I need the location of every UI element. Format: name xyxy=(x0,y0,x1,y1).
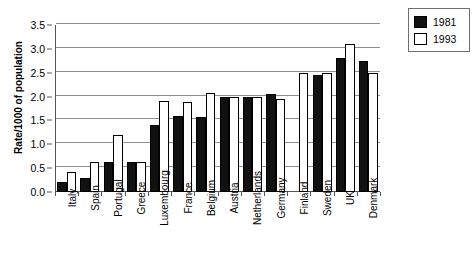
y-axis-tick-label: 0.5 xyxy=(30,162,45,174)
x-axis-label: Germany xyxy=(276,177,287,218)
x-axis-labels: ItalySpainPortugalGreeceLuxembourgFrance… xyxy=(55,196,380,268)
x-axis-label-cell: Greece xyxy=(125,196,148,268)
y-axis-tick-label: 1.5 xyxy=(30,114,45,126)
y-axis-tick-label: 3.5 xyxy=(30,19,45,31)
bar-group xyxy=(264,25,287,192)
x-axis-label-cell: UK xyxy=(334,196,357,268)
bar-group xyxy=(101,25,124,192)
y-axis-tick-label: 2.5 xyxy=(30,67,45,79)
x-axis-label-cell: Austria xyxy=(218,196,241,268)
bar-1981 xyxy=(196,117,206,192)
x-axis-label-cell: Sweden xyxy=(310,196,333,268)
bar-group xyxy=(55,25,78,192)
bar-1981 xyxy=(104,162,114,192)
x-axis-label: Denmark xyxy=(368,178,379,219)
bar-group xyxy=(334,25,357,192)
x-axis-label-cell: Denmark xyxy=(357,196,380,268)
bar-group xyxy=(78,25,101,192)
y-axis-tickmark xyxy=(47,192,52,193)
bar-1981 xyxy=(80,178,90,192)
bar-1993 xyxy=(368,73,378,192)
x-axis-tickmark xyxy=(380,192,381,196)
x-axis-label-cell: Netherlands xyxy=(241,196,264,268)
y-axis-tickmark xyxy=(47,168,52,169)
x-axis-label-cell: Finland xyxy=(287,196,310,268)
bar-group xyxy=(125,25,148,192)
bar-group xyxy=(148,25,171,192)
x-axis-label-cell: Italy xyxy=(55,196,78,268)
x-axis-label: Sweden xyxy=(322,180,333,216)
gridline xyxy=(56,23,380,24)
y-axis-tickmark xyxy=(47,144,52,145)
bar-1981 xyxy=(57,182,67,192)
x-axis-label-cell: Belgium xyxy=(194,196,217,268)
bar-1993 xyxy=(322,73,332,192)
x-axis-label: Greece xyxy=(136,182,147,215)
y-axis-tick-label: 0.0 xyxy=(30,186,45,198)
bar-1993 xyxy=(206,93,216,192)
y-axis-tickmark xyxy=(47,96,52,97)
x-axis-label: Netherlands xyxy=(252,171,263,225)
bars-layer xyxy=(55,25,380,192)
y-axis-tickmark xyxy=(47,120,52,121)
x-axis-label: Portugal xyxy=(113,179,124,216)
bar-1993 xyxy=(183,102,193,192)
y-axis-tickmark xyxy=(47,72,52,73)
bar-1993 xyxy=(299,73,309,192)
bar-group xyxy=(357,25,380,192)
y-axis-tick-label: 1.0 xyxy=(30,138,45,150)
x-axis-label: Italy xyxy=(67,189,78,207)
y-axis-ticks: 0.00.51.01.52.02.53.03.5 xyxy=(0,25,52,192)
y-axis-tickmark xyxy=(47,48,52,49)
x-axis-label: Belgium xyxy=(206,180,217,216)
x-axis-label: Spain xyxy=(90,185,101,211)
x-axis-label: Austria xyxy=(229,182,240,213)
x-axis-label: Luxembourg xyxy=(159,170,170,226)
bar-group xyxy=(287,25,310,192)
bar-1981 xyxy=(127,162,137,192)
bar-group xyxy=(218,25,241,192)
bar-1981 xyxy=(313,75,323,192)
x-axis-label-cell: France xyxy=(171,196,194,268)
legend-label-1993: 1993 xyxy=(433,33,456,45)
legend-entry-1993: 1993 xyxy=(412,30,466,47)
chart-legend: 1981 1993 xyxy=(408,8,470,52)
bar-1981 xyxy=(336,58,346,192)
x-axis-label: Finland xyxy=(299,182,310,215)
x-axis-label: France xyxy=(183,182,194,213)
bar-group xyxy=(310,25,333,192)
bar-chart: Rate/1000 of population 0.00.51.01.52.02… xyxy=(0,0,475,268)
x-axis-label-cell: Portugal xyxy=(101,196,124,268)
legend-entry-1981: 1981 xyxy=(412,13,466,30)
x-axis-label-cell: Spain xyxy=(78,196,101,268)
bar-1993 xyxy=(345,44,355,192)
legend-label-1981: 1981 xyxy=(433,16,456,28)
y-axis-tick-label: 2.0 xyxy=(30,91,45,103)
x-axis-label-cell: Germany xyxy=(264,196,287,268)
bar-1993 xyxy=(229,97,239,192)
bar-1981 xyxy=(266,94,276,192)
bar-1981 xyxy=(220,97,230,192)
y-axis-tick-label: 3.0 xyxy=(30,43,45,55)
bar-1981 xyxy=(359,61,369,192)
legend-swatch-1993 xyxy=(414,33,427,45)
y-axis-tickmark xyxy=(47,25,52,26)
x-axis-label-cell: Luxembourg xyxy=(148,196,171,268)
bar-1981 xyxy=(173,116,183,192)
bar-group xyxy=(241,25,264,192)
bar-group xyxy=(194,25,217,192)
bar-1981 xyxy=(243,97,253,192)
bar-group xyxy=(171,25,194,192)
legend-swatch-1981 xyxy=(414,16,427,28)
x-axis-label: UK xyxy=(345,191,356,205)
